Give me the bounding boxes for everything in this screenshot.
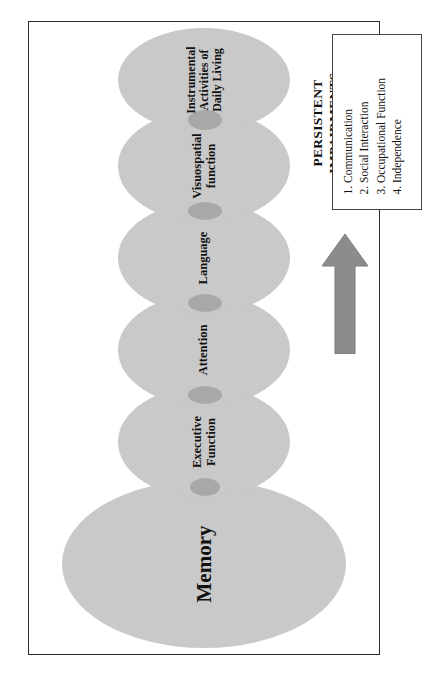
persistent-impairments-box: Communication Social Interaction Occupat… [332,34,422,210]
right-block-arrow-icon [322,234,368,354]
list-item: Social Interaction [356,35,372,183]
list-item: Occupational Function [372,35,388,183]
overlap-lens-memory-executive [190,478,220,496]
figure-frame: Memory Executive Function Attention Lang… [28,21,380,655]
overlap-lens-language-visuospatial [188,202,222,220]
node-memory-label: Memory [192,480,215,648]
overlap-lens-visuospatial-iadl [188,110,222,130]
node-memory[interactable]: Memory [62,480,346,648]
rotated-figure-canvas: Memory Executive Function Attention Lang… [30,23,379,654]
impairments-list: Communication Social Interaction Occupat… [333,35,405,209]
flow-arrow [322,234,368,354]
overlap-lens-attention-language [188,294,222,312]
list-item: Communication [340,35,356,183]
list-item: Independence [388,35,404,183]
caption-word-persistent: PERSISTENT [310,79,326,166]
overlap-lens-executive-attention [188,386,222,404]
